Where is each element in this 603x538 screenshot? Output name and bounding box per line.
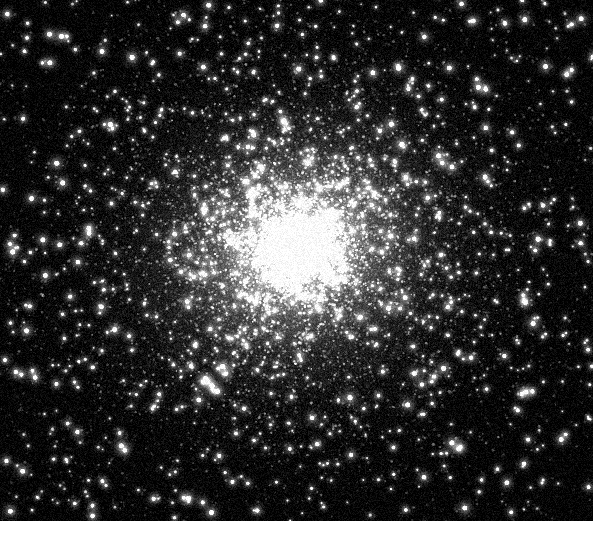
screenshot-root [0, 0, 603, 538]
right-white-margin [593, 0, 603, 521]
bottom-caption-strip [0, 521, 603, 538]
globular-cluster-starfield-canvas [0, 0, 593, 521]
astronomical-image-plate [0, 0, 593, 521]
